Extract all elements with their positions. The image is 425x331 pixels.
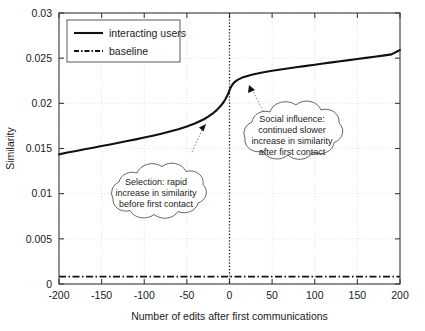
y-tick-label: 0.03 xyxy=(32,7,53,19)
annotation-social-influence-line-1: Social influence: xyxy=(259,114,325,124)
y-tick-label: 0.015 xyxy=(26,142,52,154)
annotation-selection-line-2: increase in similarity xyxy=(115,188,197,198)
similarity-line-chart: 00.0050.010.0150.020.0250.03 -200-150-10… xyxy=(0,0,425,331)
annotation-social-influence-line-2: continued slower xyxy=(258,125,326,135)
x-tick-label: -100 xyxy=(134,289,155,301)
annotation-selection-line-1: Selection: rapid xyxy=(125,177,187,187)
x-axis-tick-labels: -200-150-100-50050100150200 xyxy=(48,289,408,301)
chart-figure: 00.0050.010.0150.020.0250.03 -200-150-10… xyxy=(0,0,425,331)
x-tick-label: -150 xyxy=(91,289,112,301)
y-tick-label: 0.01 xyxy=(32,187,53,199)
annotation-social-influence-line-4: after first contact xyxy=(259,147,326,157)
y-axis-title: Similarity xyxy=(4,126,16,169)
y-tick-label: 0.02 xyxy=(32,97,53,109)
x-tick-label: -200 xyxy=(48,289,69,301)
x-tick-label: 0 xyxy=(227,289,233,301)
x-axis-title: Number of edits after first communicatio… xyxy=(131,310,328,322)
legend: interacting users baseline xyxy=(67,20,186,62)
legend-label-interacting-users: interacting users xyxy=(109,27,186,39)
annotation-selection-line-3: before first contact xyxy=(119,199,194,209)
y-tick-label: 0.005 xyxy=(26,233,52,245)
x-tick-label: 200 xyxy=(391,289,409,301)
annotation-social-influence-line-3: increase in similarity xyxy=(251,136,333,146)
legend-label-baseline: baseline xyxy=(109,45,148,57)
y-tick-label: 0 xyxy=(46,278,52,290)
chart-background xyxy=(0,0,425,331)
x-tick-label: 150 xyxy=(349,289,367,301)
y-tick-label: 0.025 xyxy=(26,52,52,64)
x-tick-label: -50 xyxy=(179,289,194,301)
x-tick-label: 50 xyxy=(266,289,278,301)
x-tick-label: 100 xyxy=(306,289,324,301)
